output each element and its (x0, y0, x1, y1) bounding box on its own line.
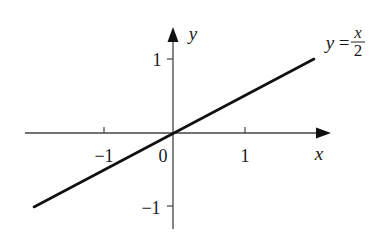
equation-annotation: y = x 2 (324, 23, 365, 60)
origin-label: 0 (159, 146, 168, 166)
y-axis (167, 27, 179, 229)
eq-denominator: 2 (354, 41, 363, 60)
chart: −1 0 1 1 −1 x y y = x 2 (0, 0, 387, 240)
y-axis-label: y (187, 23, 198, 44)
x-axis-label: x (314, 143, 324, 164)
y-axis-arrow-icon (168, 27, 179, 42)
y-tick-label-neg1: −1 (141, 198, 160, 218)
eq-equals: = (339, 32, 350, 53)
eq-numerator: x (353, 23, 362, 42)
eq-lhs: y (324, 32, 335, 53)
x-axis-arrow-icon (316, 128, 331, 139)
x-axis (25, 127, 331, 139)
x-tick-label-pos1: 1 (241, 146, 250, 166)
y-tick-label-pos1: 1 (153, 50, 162, 70)
x-tick-label-neg1: −1 (94, 146, 113, 166)
